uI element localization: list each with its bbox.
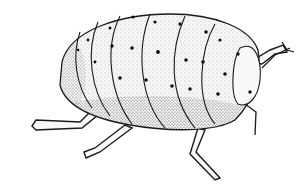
insect-illustration xyxy=(0,0,304,195)
insect-body xyxy=(40,10,265,140)
